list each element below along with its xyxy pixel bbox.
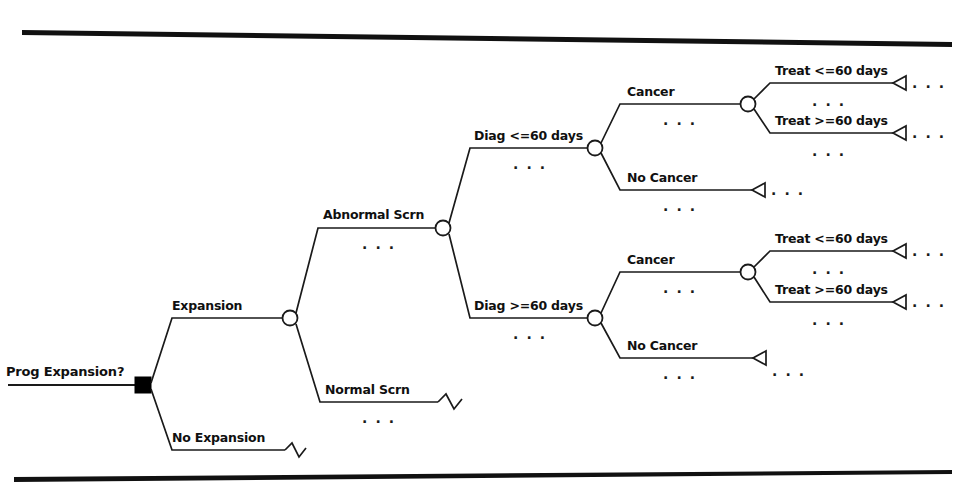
terminal-treat-le-60-lower — [893, 244, 906, 258]
branch-label-treat-le-60-lower: Treat <=60 days — [775, 233, 888, 246]
chance-node-cancer-lower[interactable] — [588, 311, 603, 326]
edge-expansion — [151, 318, 290, 383]
branch-label-treat-le-60-upper: Treat <=60 days — [775, 65, 888, 78]
ellipsis-diag-le-60: . . . — [513, 157, 547, 171]
branch-label-cancer-lower: Cancer — [627, 254, 674, 267]
terminal-no-cancer-lower — [753, 351, 766, 365]
chance-node-treat-upper[interactable] — [741, 97, 756, 112]
ellipsis-terminal-treat-ge-60-upper: . . . — [912, 126, 946, 140]
terminal-no-cancer-upper — [752, 183, 765, 197]
root-decision-node[interactable] — [135, 377, 151, 393]
terminal-treat-le-60-upper — [893, 76, 906, 90]
ellipsis-cancer-upper: . . . — [663, 113, 697, 127]
ellipsis-terminal-treat-le-60-lower: . . . — [912, 244, 946, 258]
ellipsis-treat-upper-bottom: . . . — [812, 144, 846, 158]
bottom-rule — [14, 470, 952, 482]
ellipsis-treat-lower-mid: . . . — [812, 262, 846, 276]
chance-node-treat-lower[interactable] — [741, 265, 756, 280]
ellipsis-terminal-treat-le-60-upper: . . . — [912, 76, 946, 90]
ellipsis-no-cancer-lower: . . . — [663, 367, 697, 381]
no-expansion-squiggle — [285, 443, 306, 457]
branch-label-treat-ge-60-lower: Treat >=60 days — [775, 284, 888, 297]
branch-label-no-expansion: No Expansion — [172, 432, 265, 445]
ellipsis-terminal-treat-ge-60-lower: . . . — [912, 295, 946, 309]
normal-scrn-squiggle — [438, 394, 462, 409]
branch-label-normal-scrn: Normal Scrn — [325, 384, 410, 397]
branch-label-cancer-upper: Cancer — [627, 86, 674, 99]
ellipsis-normal-scrn: . . . — [362, 411, 396, 425]
ellipsis-terminal-no-cancer-upper: . . . — [771, 183, 805, 197]
ellipsis-expansion: . . . — [362, 237, 396, 251]
chance-node-cancer-upper[interactable] — [588, 141, 603, 156]
ellipsis-diag-ge-60: . . . — [513, 327, 547, 341]
branch-label-diag-le-60: Diag <=60 days — [474, 130, 583, 143]
ellipsis-cancer-lower: . . . — [663, 281, 697, 295]
root-label: Prog Expansion? — [6, 364, 124, 379]
branch-label-treat-ge-60-upper: Treat >=60 days — [775, 115, 888, 128]
ellipsis-treat-lower-bottom: . . . — [812, 313, 846, 327]
branch-label-abnormal-scrn: Abnormal Scrn — [323, 209, 424, 222]
branch-label-expansion: Expansion — [172, 300, 242, 313]
terminal-treat-ge-60-lower — [893, 295, 906, 309]
branch-label-no-cancer-lower: No Cancer — [627, 340, 697, 353]
ellipsis-terminal-no-cancer-lower: . . . — [772, 364, 806, 378]
branch-label-diag-ge-60: Diag >=60 days — [474, 300, 583, 313]
decision-tree-figure: Prog Expansion? Expansion No Expansion A… — [0, 0, 960, 488]
ellipsis-treat-upper-mid: . . . — [812, 94, 846, 108]
ellipsis-no-cancer-upper: . . . — [663, 199, 697, 213]
top-rule — [22, 30, 952, 47]
terminal-treat-ge-60-upper — [893, 126, 906, 140]
branch-label-no-cancer-upper: No Cancer — [627, 172, 697, 185]
